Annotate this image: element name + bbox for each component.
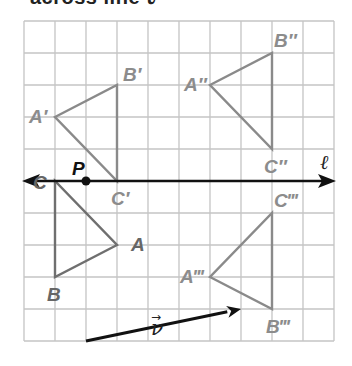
transformation-diagram: ℓP ν→ ABCA′B′C′A″B″C″A‴B‴C‴ [0, 0, 352, 366]
vertex-label: A‴ [179, 266, 205, 287]
vertex-labels: ABCA′B′C′A″B″C″A‴B‴C‴ [28, 30, 299, 337]
vertex-label: B [47, 284, 61, 305]
vertex-label: C′ [111, 188, 131, 209]
vertex-label: B″ [274, 30, 298, 51]
vector-arrowhead-icon [226, 306, 241, 318]
vertex-label: C [33, 172, 47, 193]
vertex-label: A′ [28, 106, 49, 127]
vertex-label: C″ [264, 156, 288, 177]
vertex-label: B‴ [266, 316, 291, 337]
point-p-label: P [72, 158, 85, 179]
vertex-label: A″ [183, 74, 208, 95]
vector-v: ν→ [86, 306, 241, 341]
vector-arrow-accent-icon: → [151, 310, 161, 324]
vertex-label: B′ [123, 64, 143, 85]
line-l-label: ℓ [320, 150, 329, 174]
vertex-label: A [130, 234, 145, 255]
vertex-label: C‴ [274, 190, 299, 211]
